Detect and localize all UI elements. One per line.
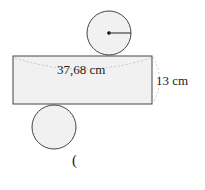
cylinder-net-diagram <box>0 0 205 190</box>
height-label: 13 cm <box>156 73 188 89</box>
width-label: 37,68 cm <box>57 62 105 78</box>
bottom-base-circle <box>32 105 76 149</box>
answer-paren: ( <box>72 152 77 169</box>
